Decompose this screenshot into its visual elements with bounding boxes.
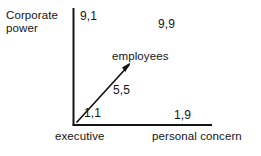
grid-point-label-top-right: 9,9 [158, 18, 175, 31]
grid-point-label-bottom-left: 1,1 [84, 107, 101, 120]
employees-arrow-label: employees [112, 50, 169, 63]
y-axis-title: Corporate power [6, 9, 70, 35]
x-axis-left-title: executive [55, 130, 104, 143]
grid-point-label-bottom-right: 1,9 [174, 109, 191, 122]
grid-point-label-center: 5,5 [113, 84, 130, 97]
grid-point-label-top-left: 9,1 [80, 10, 97, 23]
diagram-canvas: Corporate power executive personal conce… [0, 0, 261, 156]
x-axis-right-title: personal concern [152, 130, 242, 143]
